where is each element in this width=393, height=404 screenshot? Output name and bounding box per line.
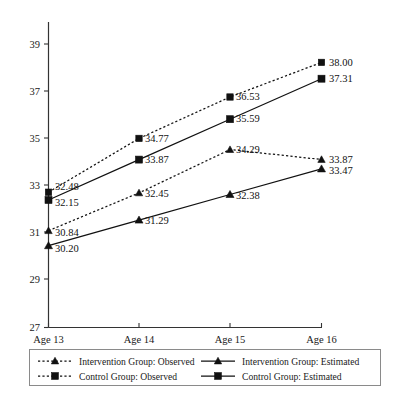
y-tick-labels: 39 37 35 33 31 29 27 <box>30 39 41 333</box>
control-observed-value-age15: 36.53 <box>236 91 260 102</box>
intervention-observed-marker-age14 <box>135 189 142 196</box>
control-observed-marker-age14 <box>136 135 142 141</box>
control-estimated-marker-age14 <box>136 156 143 163</box>
y-tick-label-39: 39 <box>30 39 41 50</box>
control-estimated-value-age14: 33.87 <box>145 154 169 165</box>
intervention-observed-value-age13: 30.84 <box>55 227 79 238</box>
axes-group <box>44 22 322 328</box>
y-tick-label-27: 27 <box>30 322 41 333</box>
legend-label-control-observed: Control Group: Observed <box>79 371 177 382</box>
control-estimated-marker-age16 <box>318 75 325 82</box>
control-observed-line <box>49 62 322 192</box>
series-intervention-observed: 30.84 32.45 34.29 33.87 <box>45 144 353 238</box>
control-estimated-marker-age13 <box>45 197 52 204</box>
line-chart-figure: 39 37 35 33 31 29 27 Age 13 Age 14 Age 1… <box>0 0 393 404</box>
intervention-estimated-value-age14: 31.29 <box>145 215 169 226</box>
y-tick-label-33: 33 <box>30 180 41 191</box>
legend-label-control-estimated: Control Group: Estimated <box>242 371 342 382</box>
chart-canvas: 39 37 35 33 31 29 27 Age 13 Age 14 Age 1… <box>0 0 393 404</box>
control-observed-value-age13: 32.48 <box>55 181 79 192</box>
legend: Intervention Group: Observed Control Gro… <box>30 350 381 386</box>
series-control-estimated: 32.15 33.87 35.59 37.31 <box>45 73 353 208</box>
x-tick-label-age16: Age 16 <box>306 334 337 345</box>
control-observed-value-age14: 34.77 <box>145 133 169 144</box>
legend-item-intervention-observed[interactable]: Intervention Group: Observed <box>38 356 195 367</box>
control-estimated-marker-age15 <box>227 116 234 123</box>
legend-marker-square-2 <box>215 373 222 380</box>
control-observed-marker-age16 <box>318 59 324 65</box>
x-tick-label-age14: Age 14 <box>124 334 155 345</box>
legend-label-intervention-observed: Intervention Group: Observed <box>79 356 195 367</box>
intervention-observed-value-age16: 33.87 <box>329 154 353 165</box>
intervention-observed-value-age15: 34.29 <box>236 144 260 155</box>
x-tick-labels: Age 13 Age 14 Age 15 Age 16 <box>33 334 337 345</box>
y-tick-label-37: 37 <box>30 86 41 97</box>
x-tick-label-age15: Age 15 <box>215 334 246 345</box>
series-intervention-estimated: 30.20 31.29 32.38 33.47 <box>45 165 353 254</box>
control-estimated-value-age13: 32.15 <box>55 197 79 208</box>
legend-item-intervention-estimated[interactable]: Intervention Group: Estimated <box>201 356 359 367</box>
y-tick-label-35: 35 <box>30 133 41 144</box>
intervention-observed-value-age14: 32.45 <box>145 188 169 199</box>
y-tick-label-29: 29 <box>30 274 41 285</box>
series-control-observed: 32.48 34.77 36.53 38.00 <box>45 57 352 195</box>
x-tick-label-age13: Age 13 <box>33 334 64 345</box>
intervention-observed-marker-age15 <box>226 146 233 153</box>
legend-item-control-estimated[interactable]: Control Group: Estimated <box>201 371 342 382</box>
intervention-observed-line <box>49 150 322 231</box>
legend-marker-square-1 <box>52 373 59 380</box>
control-observed-value-age16: 38.00 <box>329 57 353 68</box>
control-estimated-value-age15: 35.59 <box>236 113 260 124</box>
y-tick-label-31: 31 <box>30 227 41 238</box>
legend-item-control-observed[interactable]: Control Group: Observed <box>38 371 177 382</box>
intervention-estimated-line <box>49 169 322 246</box>
legend-label-intervention-estimated: Intervention Group: Estimated <box>242 356 359 367</box>
intervention-observed-marker-age16 <box>318 156 325 163</box>
intervention-estimated-marker-age16 <box>318 165 326 172</box>
control-observed-marker-age13 <box>45 189 51 195</box>
intervention-estimated-value-age16: 33.47 <box>329 165 353 176</box>
intervention-estimated-value-age13: 30.20 <box>55 243 79 254</box>
control-estimated-value-age16: 37.31 <box>329 73 353 84</box>
control-estimated-line <box>49 79 322 200</box>
control-observed-marker-age15 <box>227 94 233 100</box>
intervention-observed-marker-age13 <box>45 227 52 234</box>
intervention-estimated-value-age15: 32.38 <box>236 190 260 201</box>
